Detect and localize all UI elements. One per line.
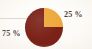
pie-chart-figure: 25 % 75 % [0, 0, 92, 49]
pie-chart [25, 8, 63, 47]
pie-label-75-percent: 75 % [2, 29, 21, 38]
cropped-caption-text [27, 0, 63, 3]
pie-slices [25, 8, 63, 47]
pie-label-25-percent: 25 % [64, 10, 83, 19]
